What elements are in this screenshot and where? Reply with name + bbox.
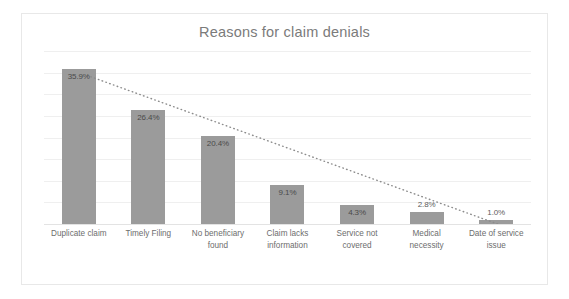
chart-title: Reasons for claim denials (22, 24, 547, 40)
bar-slot: 2.8% (392, 51, 462, 224)
chart-container: Reasons for claim denials 35.9%26.4%20.4… (21, 13, 548, 285)
bar-data-label: 1.0% (487, 208, 505, 217)
category-label-line: Medical (392, 228, 462, 240)
bar[interactable] (131, 110, 165, 224)
bar-data-label: 26.4% (137, 113, 159, 122)
category-label-line: Duplicate claim (44, 228, 114, 240)
category-label: Medicalnecessity (392, 228, 462, 251)
category-label-line: information (253, 240, 323, 252)
category-axis: Duplicate claimTimely FilingNo beneficia… (44, 228, 531, 274)
bar[interactable] (201, 136, 235, 224)
bar-slot: 4.3% (322, 51, 392, 224)
bar-data-label: 4.3% (348, 208, 366, 217)
bar-slot: 9.1% (253, 51, 323, 224)
bar-data-label: 35.9% (68, 72, 90, 81)
bar-slot: 20.4% (183, 51, 253, 224)
category-label: Date of serviceissue (461, 228, 531, 251)
category-label-line: Timely Filing (114, 228, 184, 240)
bar-slot: 26.4% (114, 51, 184, 224)
category-label-line: necessity (392, 240, 462, 252)
bar-data-label: 20.4% (207, 139, 229, 148)
bar-slot: 35.9% (44, 51, 114, 224)
category-label: Duplicate claim (44, 228, 114, 240)
category-label-line: No beneficiary (183, 228, 253, 240)
plot-area: 35.9%26.4%20.4%9.1%4.3%2.8%1.0% (44, 51, 531, 224)
bar[interactable] (62, 69, 96, 224)
bar[interactable] (410, 212, 444, 224)
category-label: Service notcovered (322, 228, 392, 251)
bar-slot: 1.0% (461, 51, 531, 224)
category-label-line: found (183, 240, 253, 252)
bar-data-label: 2.8% (418, 200, 436, 209)
category-label: Timely Filing (114, 228, 184, 240)
bar-data-label: 9.1% (279, 188, 297, 197)
bar-series: 35.9%26.4%20.4%9.1%4.3%2.8%1.0% (44, 51, 531, 224)
category-label: No beneficiaryfound (183, 228, 253, 251)
gridline (44, 224, 531, 225)
bar[interactable] (479, 220, 513, 224)
category-label-line: issue (461, 240, 531, 252)
category-label-line: Service not (322, 228, 392, 240)
category-label: Claim lacksinformation (253, 228, 323, 251)
category-label-line: Claim lacks (253, 228, 323, 240)
category-label-line: covered (322, 240, 392, 252)
category-label-line: Date of service (461, 228, 531, 240)
